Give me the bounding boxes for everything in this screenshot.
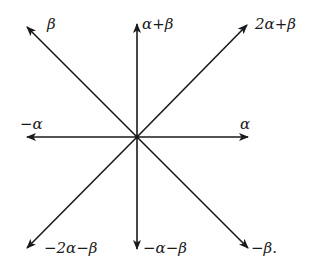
root-arrow-minus-beta [137,137,248,248]
root-label-beta: β [47,16,56,32]
root-label-2alpha-plus-beta: 2α+β [255,16,296,32]
root-label-minus-alpha-minus-beta: −α−β [143,240,187,256]
root-label-alpha: α [240,116,250,132]
root-arrow-minus-2alpha-minus-beta [27,137,137,248]
root-label-alpha-plus-beta: α+β [142,16,173,32]
root-system-diagram [0,0,323,265]
root-arrow-beta [27,27,137,137]
origin-point [135,135,139,139]
root-label-minus-2alpha-minus-beta: −2α−β [44,240,97,256]
root-arrow-2alpha-plus-beta [137,25,247,137]
root-label-minus-alpha: −α [20,116,43,132]
root-label-minus-beta: −β. [251,240,277,256]
